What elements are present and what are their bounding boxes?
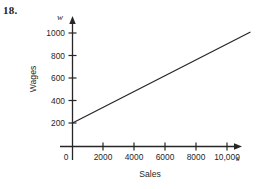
y-tick-label-400: 400	[51, 96, 65, 106]
origin-label: 0	[64, 152, 69, 162]
chart-plot: 200 400 600 800 1000 0 2000 4000 6000 80…	[0, 0, 257, 189]
data-line-wages	[73, 32, 251, 123]
y-tick-label-1000: 1000	[46, 28, 65, 38]
x-tick-label-8000: 8000	[187, 152, 206, 162]
y-axis-title: Wages	[28, 66, 38, 92]
x-tick-label-6000: 6000	[156, 152, 175, 162]
x-axis-title: Sales	[139, 169, 161, 179]
y-axis-arrow-icon	[69, 16, 75, 24]
y-tick-label-200: 200	[51, 118, 65, 128]
x-axis-arrow-icon	[234, 143, 242, 149]
x-tick-label-2000: 2000	[94, 152, 113, 162]
x-axis-variable-label: s	[236, 153, 240, 163]
y-tick-label-600: 600	[51, 73, 65, 83]
y-tick-label-800: 800	[51, 51, 65, 61]
x-tick-label-4000: 4000	[125, 152, 144, 162]
y-axis-variable-label: w	[57, 12, 63, 22]
figure-container: 18. 200 400 600 800 1000 0 2000	[0, 0, 257, 189]
